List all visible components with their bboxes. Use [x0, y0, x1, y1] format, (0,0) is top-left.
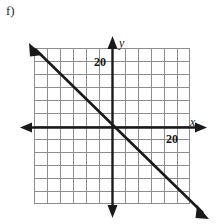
- x-axis-tick-label-20: 20: [166, 133, 178, 145]
- y-axis-name-label: y: [119, 37, 124, 49]
- y-axis-tick-label-20: 20: [94, 56, 106, 68]
- graph-figure: f): [0, 0, 222, 224]
- coordinate-plane: [0, 0, 222, 224]
- x-axis-name-label: x: [190, 116, 195, 128]
